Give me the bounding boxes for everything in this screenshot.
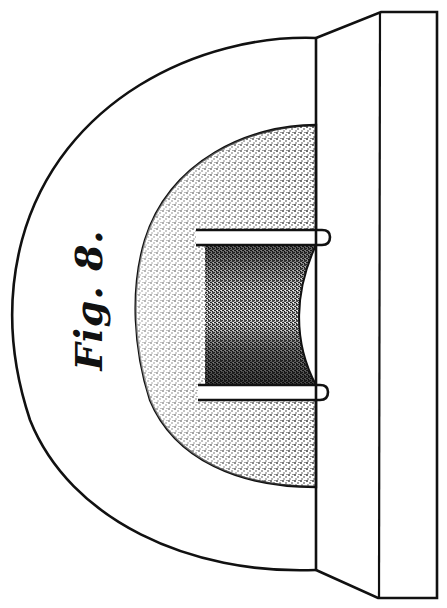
patent-figure: Fig. 8. <box>0 0 447 608</box>
right-plate-edge <box>379 12 380 598</box>
upper-rod <box>196 230 330 245</box>
right-mounting-flange <box>316 12 437 598</box>
lower-rod <box>198 385 328 400</box>
figure-label: Fig. 8. <box>66 229 111 370</box>
